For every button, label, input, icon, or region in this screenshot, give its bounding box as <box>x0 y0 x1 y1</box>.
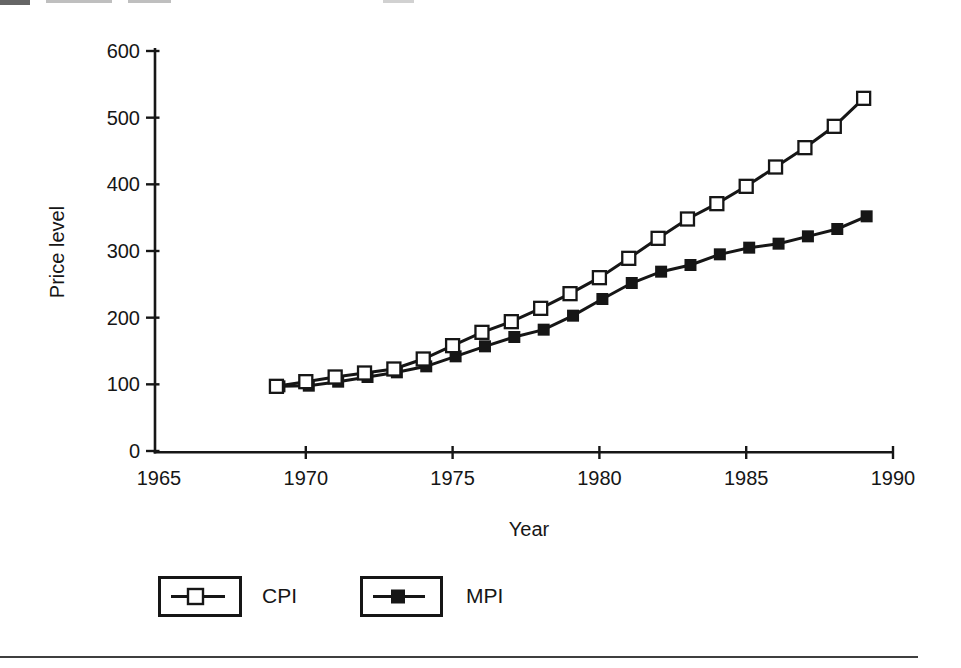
mpi-marker <box>567 310 579 322</box>
y-axis-title: Price level <box>46 206 69 298</box>
y-tick-label: 0 <box>129 440 140 462</box>
legend-mpi-label: MPI <box>466 584 503 608</box>
cpi-marker <box>857 92 870 105</box>
cpi-marker <box>446 339 459 352</box>
x-tick-label: 1990 <box>871 467 916 489</box>
cpi-marker <box>798 141 811 154</box>
cpi-marker <box>622 252 635 265</box>
y-tick-label: 600 <box>107 40 140 62</box>
y-tick-label: 300 <box>107 240 140 262</box>
y-tick-label: 500 <box>107 107 140 129</box>
cpi-marker <box>681 213 694 226</box>
legend-cpi-swatch <box>158 576 242 617</box>
legend-cpi-label: CPI <box>262 584 297 608</box>
y-tick-label: 200 <box>107 307 140 329</box>
x-axis-title: Year <box>509 518 549 541</box>
legend-mpi-swatch <box>360 576 443 617</box>
mpi-marker <box>596 293 608 305</box>
mpi-marker <box>714 248 726 260</box>
line-chart: 0100200300400500600196519701975198019851… <box>0 0 961 560</box>
mpi-marker-sample <box>363 579 440 614</box>
bottom-rule <box>0 656 918 658</box>
cpi-marker <box>299 375 312 388</box>
x-tick-label: 1975 <box>430 467 475 489</box>
figure-page: 0100200300400500600196519701975198019851… <box>0 0 961 668</box>
cpi-marker <box>652 232 665 245</box>
mpi-marker <box>743 242 755 254</box>
cpi-marker <box>534 302 547 315</box>
x-tick-label: 1965 <box>137 467 182 489</box>
mpi-marker <box>538 324 550 336</box>
mpi-marker <box>626 277 638 289</box>
cpi-marker <box>387 363 400 376</box>
y-tick-label: 100 <box>107 373 140 395</box>
cpi-marker <box>475 326 488 339</box>
cpi-marker <box>270 380 283 393</box>
x-tick-label: 1985 <box>724 467 769 489</box>
y-tick-label: 400 <box>107 173 140 195</box>
cpi-marker <box>329 371 342 384</box>
mpi-marker <box>802 230 814 242</box>
mpi-marker <box>508 331 520 343</box>
mpi-marker <box>773 238 785 250</box>
mpi-marker <box>684 259 696 271</box>
mpi-marker <box>655 266 667 278</box>
mpi-marker <box>479 340 491 352</box>
x-tick-label: 1970 <box>284 467 329 489</box>
cpi-marker-sample <box>161 579 239 614</box>
cpi-marker <box>828 120 841 133</box>
cpi-marker <box>593 271 606 284</box>
open-square-icon <box>188 589 203 604</box>
mpi-marker <box>831 223 843 235</box>
cpi-marker <box>740 180 753 193</box>
filled-square-icon <box>391 590 405 604</box>
mpi-marker <box>861 210 873 222</box>
cpi-marker <box>564 287 577 300</box>
x-tick-label: 1980 <box>577 467 622 489</box>
cpi-marker <box>505 315 518 328</box>
cpi-marker <box>417 353 430 366</box>
cpi-marker <box>769 161 782 174</box>
cpi-marker <box>358 367 371 380</box>
cpi-marker <box>710 197 723 210</box>
